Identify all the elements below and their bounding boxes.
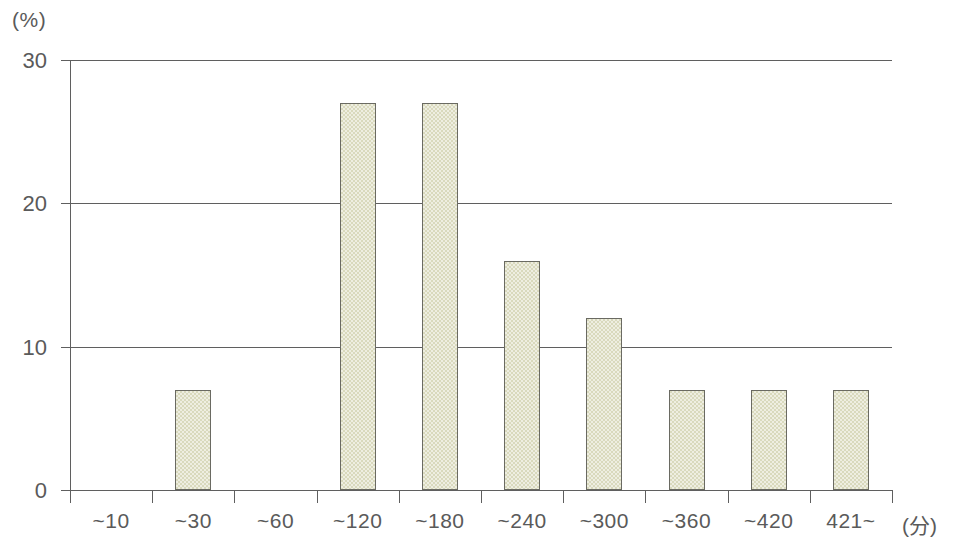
x-tick <box>481 490 482 503</box>
bar <box>669 390 705 490</box>
histogram-chart: (%) 0102030 ~10~30~60~120~180~240~300~36… <box>0 0 955 554</box>
bar <box>833 390 869 490</box>
x-tick-label: ~240 <box>497 509 546 533</box>
x-tick-label: ~180 <box>415 509 464 533</box>
gridline <box>70 60 892 61</box>
bar <box>422 103 458 490</box>
x-tick <box>399 490 400 503</box>
x-tick-label: ~120 <box>333 509 382 533</box>
y-tick-label: 0 <box>35 478 47 504</box>
x-tick <box>70 490 71 503</box>
gridline <box>70 347 892 348</box>
bar <box>751 390 787 490</box>
y-axis-line <box>70 60 71 490</box>
x-tick-label: ~300 <box>580 509 629 533</box>
x-axis-unit-label: (分) <box>902 509 937 539</box>
x-tick-label: 421~ <box>826 509 875 533</box>
x-tick-label: ~360 <box>662 509 711 533</box>
bar <box>340 103 376 490</box>
y-tick: 0 <box>61 490 70 491</box>
x-tick <box>317 490 318 503</box>
y-tick: 20 <box>61 203 70 204</box>
x-tick <box>563 490 564 503</box>
y-tick-label: 10 <box>23 335 47 361</box>
y-tick: 30 <box>61 60 70 61</box>
x-tick <box>810 490 811 503</box>
x-tick <box>728 490 729 503</box>
y-axis-unit-label: (%) <box>12 8 46 32</box>
x-tick <box>892 490 893 503</box>
y-tick: 10 <box>61 347 70 348</box>
y-tick-label: 30 <box>23 48 47 74</box>
bar <box>586 318 622 490</box>
x-tick-label: ~420 <box>744 509 793 533</box>
x-tick-label: ~30 <box>175 509 212 533</box>
x-tick-label: ~60 <box>257 509 294 533</box>
y-tick-label: 20 <box>23 191 47 217</box>
bar <box>504 261 540 490</box>
gridline <box>70 203 892 204</box>
x-tick-label: ~10 <box>93 509 130 533</box>
x-tick <box>152 490 153 503</box>
x-tick <box>234 490 235 503</box>
plot-area: 0102030 ~10~30~60~120~180~240~300~360~42… <box>70 60 892 490</box>
bar <box>175 390 211 490</box>
x-tick <box>645 490 646 503</box>
